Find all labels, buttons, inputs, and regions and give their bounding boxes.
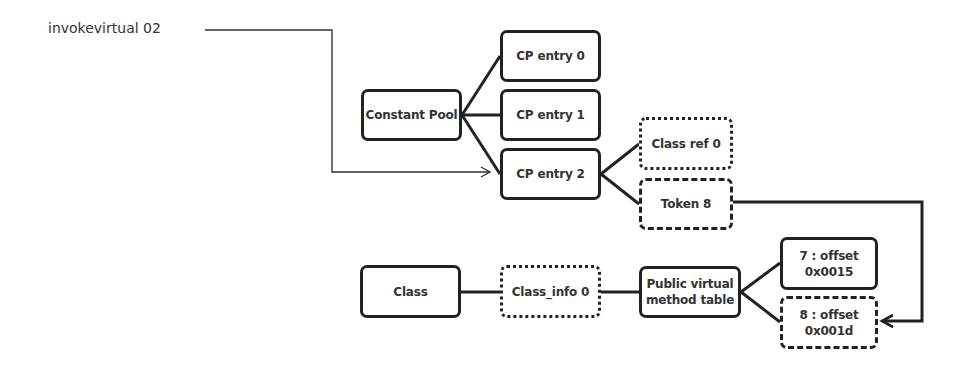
node-label-line1: 8 : offset xyxy=(799,307,858,323)
node-label-line2: method table xyxy=(646,292,734,308)
node-label-line1: Public virtual xyxy=(646,276,734,292)
edge-pvmt-offset8 xyxy=(741,292,780,322)
node-token-8: Token 8 xyxy=(639,178,733,230)
node-label: Class xyxy=(393,284,427,300)
node-label: Class ref 0 xyxy=(651,136,720,152)
diagram-canvas: invokevirtual 02 Constant Pool CP entry … xyxy=(0,0,978,368)
edge-token xyxy=(601,174,639,204)
node-offset-8: 8 : offset 0x001d xyxy=(780,296,878,349)
edge-pvmt-offset7 xyxy=(741,263,780,292)
node-label-line2: 0x0015 xyxy=(799,264,858,280)
instruction-label: invokevirtual 02 xyxy=(48,20,161,36)
node-class-ref-0: Class ref 0 xyxy=(639,117,733,170)
node-label: Constant Pool xyxy=(366,107,458,123)
node-label-line1: 7 : offset xyxy=(799,248,858,264)
node-offset-7: 7 : offset 0x0015 xyxy=(780,237,878,290)
node-label: Token 8 xyxy=(661,196,711,212)
node-label-line2: 0x001d xyxy=(799,323,858,339)
edge-classref xyxy=(601,144,639,174)
node-constant-pool: Constant Pool xyxy=(361,89,462,141)
node-cp-entry-0: CP entry 0 xyxy=(500,30,601,82)
edge-cp-entry0 xyxy=(462,56,500,115)
node-label: CP entry 0 xyxy=(516,48,584,64)
node-class: Class xyxy=(360,265,461,318)
node-label: CP entry 2 xyxy=(516,166,584,182)
node-label: 7 : offset 0x0015 xyxy=(799,248,858,280)
edge-cp-entry2 xyxy=(462,115,500,174)
node-cp-entry-1: CP entry 1 xyxy=(500,89,601,141)
node-cp-entry-2: CP entry 2 xyxy=(500,148,601,200)
node-label: Class_info 0 xyxy=(512,284,590,300)
node-label: 8 : offset 0x001d xyxy=(799,307,858,339)
node-label: CP entry 1 xyxy=(516,107,584,123)
node-label: Public virtual method table xyxy=(646,276,734,308)
node-class-info-0: Class_info 0 xyxy=(500,265,601,318)
node-public-virtual-method-table: Public virtual method table xyxy=(639,266,741,318)
